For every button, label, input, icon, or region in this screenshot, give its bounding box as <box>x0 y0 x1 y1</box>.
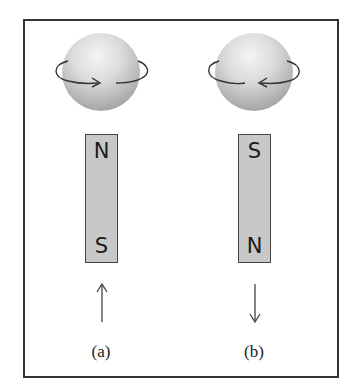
pole-label-bottom-b: N <box>239 234 270 258</box>
down-arrow-icon <box>247 282 263 324</box>
caption-a: (a) <box>81 342 121 362</box>
bar-magnet-a: N S <box>85 134 118 263</box>
pole-label-top-a: N <box>86 139 117 163</box>
caption-b: (b) <box>234 342 274 362</box>
rotation-arrow-icon-b <box>203 55 307 91</box>
pole-label-top-b: S <box>239 139 270 163</box>
rotation-arrow-icon-a <box>50 55 154 91</box>
pole-label-bottom-a: S <box>86 234 117 258</box>
up-arrow-icon <box>94 282 110 324</box>
bar-magnet-b: S N <box>238 134 271 263</box>
